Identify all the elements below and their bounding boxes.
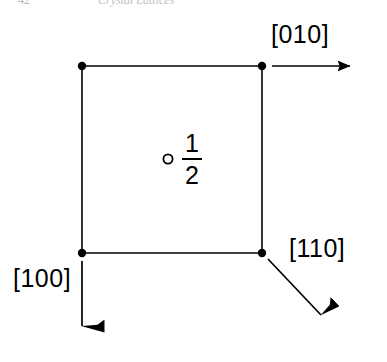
fraction-bar bbox=[182, 158, 202, 160]
corner-atom-bottom-left bbox=[78, 249, 86, 257]
corner-atom-top-left bbox=[78, 62, 86, 70]
corner-atom-bottom-right bbox=[258, 249, 266, 257]
direction-arrow-110 bbox=[268, 259, 321, 315]
corner-atom-top-right bbox=[258, 62, 266, 70]
direction-label-010: [010] bbox=[271, 22, 329, 47]
direction-label-100: [100] bbox=[13, 266, 71, 291]
direction-label-110: [110] bbox=[289, 236, 345, 261]
fraction-denominator: 2 bbox=[182, 162, 202, 188]
fraction-numerator: 1 bbox=[182, 131, 202, 157]
center-atom-open-circle-icon bbox=[163, 154, 172, 163]
figure-root: 42 Crystal Lattices bbox=[0, 0, 387, 362]
center-atom-height-fraction: 1 2 bbox=[182, 131, 202, 188]
